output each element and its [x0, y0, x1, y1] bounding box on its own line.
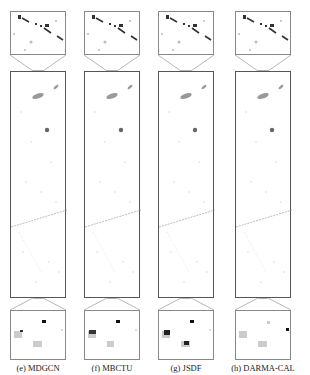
main-image — [158, 71, 214, 298]
bottom-zoom-inset — [158, 310, 214, 360]
caption: (f) MBCTU — [72, 363, 152, 373]
bottom-zoom-inset — [84, 310, 140, 360]
caption: (g) JSDF — [146, 363, 226, 373]
main-image — [10, 71, 66, 298]
top-zoom-inset — [158, 11, 214, 55]
top-zoom-inset — [10, 11, 66, 55]
top-zoom-inset — [235, 11, 291, 55]
panel-f: (f) MBCTU — [84, 0, 144, 375]
panel-g: (g) JSDF — [158, 0, 218, 375]
main-image — [235, 71, 291, 298]
caption: (h) DARMA-CAL — [223, 363, 303, 373]
main-image — [84, 71, 140, 298]
top-zoom-inset — [84, 11, 140, 55]
bottom-zoom-inset — [10, 310, 66, 360]
bottom-zoom-inset — [235, 310, 291, 360]
panel-e: (e) MDGCN — [10, 0, 70, 375]
caption: (e) MDGCN — [0, 363, 78, 373]
panel-h: (h) DARMA-CAL — [235, 0, 295, 375]
